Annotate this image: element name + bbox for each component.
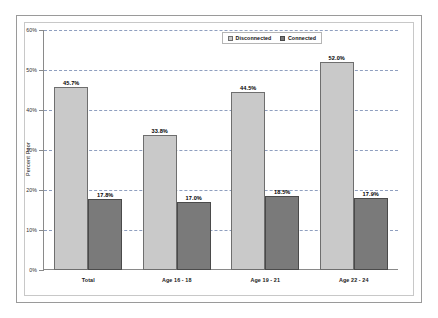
x-axis-category-label: Age 19 - 21	[250, 277, 280, 283]
y-axis-tick-label: 40%	[26, 107, 37, 113]
legend-swatch-connected	[280, 36, 285, 41]
y-axis-tick	[39, 270, 44, 271]
bar-value-label: 33.8%	[152, 128, 168, 134]
y-axis-tick-label: 30%	[26, 147, 37, 153]
bar-slot: 17.8%	[88, 30, 122, 270]
bar-disconnected-3[interactable]: 52.0%	[320, 62, 354, 270]
bar-connected-3[interactable]: 17.9%	[354, 198, 388, 270]
bar-slot: 45.7%	[54, 30, 88, 270]
legend-label-disconnected: Disconnected	[236, 35, 272, 41]
bar-value-label: 44.5%	[240, 85, 256, 91]
bar-value-label: 52.0%	[329, 55, 345, 61]
bar-slot: 17.0%	[177, 30, 211, 270]
legend-item-connected: Connected	[280, 35, 316, 41]
bar-disconnected-1[interactable]: 33.8%	[143, 135, 177, 270]
legend-label-connected: Connected	[288, 35, 316, 41]
legend-item-disconnected: Disconnected	[228, 35, 271, 41]
bar-slot: 52.0%	[320, 30, 354, 270]
y-axis-tick-label: 50%	[26, 67, 37, 73]
chart-page: Percent Poor 0%10%20%30%40%50%60% 45.7%1…	[0, 0, 438, 318]
y-axis-tick-label: 0%	[29, 267, 37, 273]
bar-groups: 45.7%17.8%Total33.8%17.0%Age 16 - 1844.5…	[44, 30, 398, 270]
bar-connected-0[interactable]: 17.8%	[88, 199, 122, 270]
bar-value-label: 45.7%	[63, 80, 79, 86]
bar-connected-1[interactable]: 17.0%	[177, 202, 211, 270]
y-axis-tick-label: 60%	[26, 27, 37, 33]
plot-area: 0%10%20%30%40%50%60% 45.7%17.8%Total33.8…	[44, 30, 398, 270]
x-axis-category-label: Total	[82, 277, 95, 283]
bar-group: 44.5%18.5%Age 19 - 21	[221, 30, 310, 270]
x-axis-category-label: Age 22 - 24	[339, 277, 369, 283]
bar-disconnected-2[interactable]: 44.5%	[231, 92, 265, 270]
bar-slot: 44.5%	[231, 30, 265, 270]
bar-group: 45.7%17.8%Total	[44, 30, 133, 270]
bar-value-label: 17.8%	[97, 192, 113, 198]
bar-group: 52.0%17.9%Age 22 - 24	[310, 30, 399, 270]
x-axis-category-label: Age 16 - 18	[162, 277, 192, 283]
bar-connected-2[interactable]: 18.5%	[265, 196, 299, 270]
bar-value-label: 17.9%	[363, 191, 379, 197]
y-axis-tick-label: 10%	[26, 227, 37, 233]
bar-disconnected-0[interactable]: 45.7%	[54, 87, 88, 270]
bar-slot: 33.8%	[143, 30, 177, 270]
bar-slot: 17.9%	[354, 30, 388, 270]
bar-value-label: 18.5%	[274, 189, 290, 195]
legend-swatch-disconnected	[228, 36, 233, 41]
bar-slot: 18.5%	[265, 30, 299, 270]
bar-group: 33.8%17.0%Age 16 - 18	[133, 30, 222, 270]
chart-legend: Disconnected Connected	[222, 32, 322, 44]
bar-value-label: 17.0%	[186, 195, 202, 201]
plot-inner: 0%10%20%30%40%50%60% 45.7%17.8%Total33.8…	[44, 30, 398, 270]
y-axis-tick-label: 20%	[26, 187, 37, 193]
